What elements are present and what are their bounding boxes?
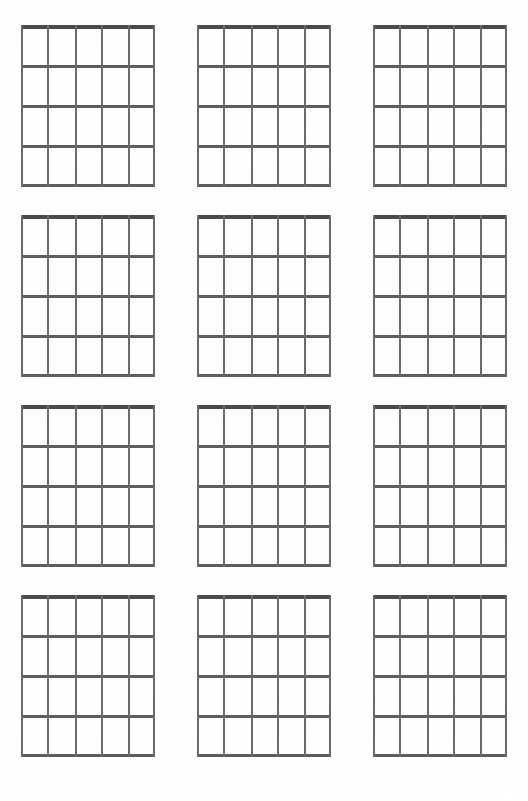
string-line — [197, 405, 199, 567]
fret-line — [197, 445, 331, 448]
string-line — [153, 215, 155, 377]
fret-line — [373, 564, 507, 567]
chord-diagram[interactable] — [194, 212, 334, 380]
string-line — [101, 595, 103, 757]
chord-diagram[interactable] — [370, 212, 510, 380]
fret-line — [21, 374, 155, 377]
fret-line — [373, 525, 507, 528]
string-line — [101, 25, 103, 187]
string-line — [153, 405, 155, 567]
string-line — [480, 25, 482, 187]
fretboard — [197, 215, 331, 377]
string-line — [399, 25, 401, 187]
nut-line — [373, 215, 507, 219]
fret-line — [373, 184, 507, 187]
string-line — [480, 405, 482, 567]
fret-line — [197, 675, 331, 678]
fret-line — [21, 635, 155, 638]
nut-line — [373, 595, 507, 599]
fret-line — [21, 525, 155, 528]
string-line — [373, 405, 375, 567]
fret-line — [373, 105, 507, 108]
string-line — [101, 405, 103, 567]
fret-line — [21, 335, 155, 338]
fret-line — [21, 754, 155, 757]
fret-line — [373, 145, 507, 148]
fret-line — [21, 485, 155, 488]
string-line — [197, 595, 199, 757]
chord-diagram[interactable] — [370, 402, 510, 570]
chord-diagram[interactable] — [194, 402, 334, 570]
string-line — [277, 405, 279, 567]
string-line — [251, 595, 253, 757]
fret-line — [21, 295, 155, 298]
chord-diagram[interactable] — [370, 592, 510, 760]
string-line — [304, 25, 306, 187]
string-line — [373, 215, 375, 377]
string-line — [197, 25, 199, 187]
string-line — [304, 595, 306, 757]
fretboard — [373, 405, 507, 567]
fret-line — [21, 105, 155, 108]
string-line — [329, 595, 331, 757]
fret-line — [21, 675, 155, 678]
string-line — [223, 215, 225, 377]
nut-line — [197, 25, 331, 29]
nut-line — [21, 405, 155, 409]
nut-line — [197, 405, 331, 409]
string-line — [453, 215, 455, 377]
fret-line — [373, 335, 507, 338]
nut-line — [21, 595, 155, 599]
string-line — [197, 215, 199, 377]
fret-line — [21, 564, 155, 567]
fretboard — [21, 25, 155, 187]
string-line — [251, 215, 253, 377]
chord-diagram[interactable] — [370, 22, 510, 190]
string-line — [453, 595, 455, 757]
string-line — [128, 215, 130, 377]
string-line — [128, 405, 130, 567]
string-line — [277, 595, 279, 757]
string-line — [399, 595, 401, 757]
string-line — [329, 25, 331, 187]
nut-line — [373, 405, 507, 409]
string-line — [505, 595, 507, 757]
fret-line — [373, 675, 507, 678]
fretboard — [373, 25, 507, 187]
string-line — [399, 215, 401, 377]
fret-line — [373, 485, 507, 488]
string-line — [277, 215, 279, 377]
fret-line — [373, 445, 507, 448]
chord-diagram[interactable] — [194, 22, 334, 190]
string-line — [505, 25, 507, 187]
string-line — [373, 25, 375, 187]
string-line — [223, 595, 225, 757]
nut-line — [21, 215, 155, 219]
string-line — [480, 595, 482, 757]
fret-line — [373, 635, 507, 638]
string-line — [427, 25, 429, 187]
string-line — [373, 595, 375, 757]
nut-line — [197, 215, 331, 219]
string-line — [47, 595, 49, 757]
string-line — [128, 595, 130, 757]
chord-diagram[interactable] — [18, 22, 158, 190]
string-line — [75, 595, 77, 757]
string-line — [329, 405, 331, 567]
chord-diagram[interactable] — [194, 592, 334, 760]
fret-line — [197, 145, 331, 148]
chord-diagram[interactable] — [18, 592, 158, 760]
fret-line — [197, 335, 331, 338]
fret-line — [197, 635, 331, 638]
fretboard — [21, 405, 155, 567]
chord-diagram[interactable] — [18, 212, 158, 380]
fret-line — [373, 255, 507, 258]
fret-line — [21, 715, 155, 718]
fretboard — [21, 595, 155, 757]
fretboard — [197, 595, 331, 757]
fret-line — [197, 184, 331, 187]
fret-line — [21, 65, 155, 68]
chord-diagram[interactable] — [18, 402, 158, 570]
fret-line — [197, 65, 331, 68]
fret-line — [197, 525, 331, 528]
